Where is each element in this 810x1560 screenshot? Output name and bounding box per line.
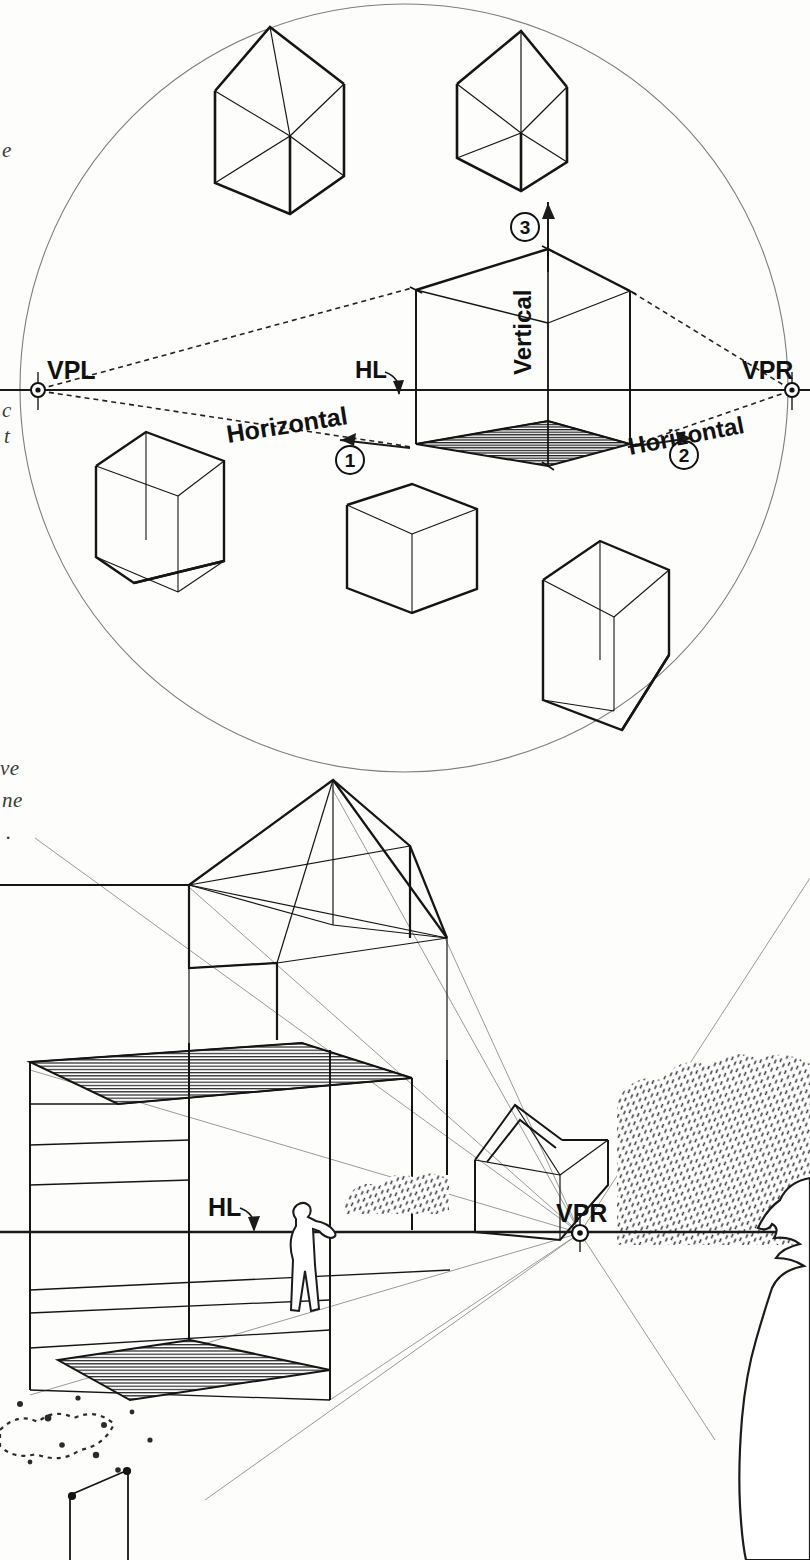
scale-figure-interior bbox=[291, 1203, 336, 1311]
margin-note-d: ve bbox=[0, 756, 20, 781]
margin-note-c: t bbox=[4, 424, 10, 449]
cube-lower-center bbox=[347, 484, 477, 613]
groundcover-blobs bbox=[17, 1395, 153, 1472]
floor-plane-hatched bbox=[58, 1340, 330, 1400]
margin-note-f: . bbox=[6, 820, 12, 845]
margin-note-e: ne bbox=[2, 788, 23, 813]
vpr-label: VPR bbox=[742, 356, 793, 384]
house-upper-left bbox=[215, 27, 344, 214]
hl-pointer-arrow-upper bbox=[385, 372, 404, 395]
step-marker-3-label: 3 bbox=[520, 217, 531, 238]
axis-label-horizontal-left: Horizontal bbox=[224, 401, 349, 448]
hl-label-upper: HL bbox=[355, 356, 387, 383]
axis-label-vertical: Vertical bbox=[509, 290, 536, 375]
house-upper-right bbox=[457, 31, 567, 191]
upper-diagram-group: 1 2 3 VPL VPR HL Horizontal Horizontal V… bbox=[0, 4, 810, 772]
step-marker-1: 1 bbox=[336, 446, 364, 474]
cube-shaded-base bbox=[416, 421, 630, 466]
shrub-texture-mid bbox=[345, 1173, 449, 1214]
hl-pointer-arrow-lower bbox=[240, 1208, 260, 1232]
cube-lower-right bbox=[543, 541, 669, 730]
hl-label-lower: HL bbox=[208, 1193, 241, 1221]
perspective-drawing-page: 1 2 3 VPL VPR HL Horizontal Horizontal V… bbox=[0, 0, 810, 1560]
step-marker-1-label: 1 bbox=[345, 450, 356, 471]
roof-construction-frame bbox=[0, 780, 447, 1060]
margin-note-a: e bbox=[2, 138, 12, 163]
step-marker-3: 3 bbox=[511, 213, 539, 241]
cube-lower-left bbox=[96, 432, 224, 592]
main-pavilion-box bbox=[30, 1043, 450, 1400]
margin-note-b: c bbox=[2, 398, 12, 423]
groundcover-texture-left bbox=[0, 1414, 114, 1458]
corner-structure-bottomleft bbox=[69, 1468, 130, 1560]
vpr-label-lower: VPR bbox=[556, 1199, 607, 1227]
sphere-of-vision-circle bbox=[20, 4, 788, 772]
drawing-canvas: 1 2 3 VPL VPR HL Horizontal Horizontal V… bbox=[0, 0, 810, 1560]
lower-diagram-group: HL VPR bbox=[0, 780, 810, 1560]
vpl-label: VPL bbox=[47, 356, 96, 384]
